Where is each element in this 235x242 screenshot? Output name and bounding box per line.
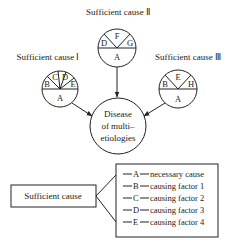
- cause-3-seg-2: E: [175, 72, 180, 82]
- svg-text:causing factor 2: causing factor 2: [150, 193, 204, 203]
- cause-2-title: Sufficient cause Ⅱ: [86, 7, 150, 17]
- cause-1-seg-4: E: [70, 79, 75, 89]
- svg-text:B: B: [133, 181, 139, 191]
- cause-2-seg-2: F: [115, 31, 120, 41]
- svg-text:causing factor 4: causing factor 4: [150, 217, 205, 227]
- arrow-cause-1: [72, 103, 92, 116]
- cause-3-seg-3: H: [188, 79, 194, 89]
- cause-2-seg-1: D: [101, 38, 107, 48]
- legend-item-b: B causing factor 1: [123, 181, 204, 191]
- disease-line-3: etiologies: [101, 133, 136, 143]
- cause-1-seg-3: D: [62, 72, 68, 82]
- disease-line-2: of multi–: [101, 121, 135, 131]
- svg-text:E: E: [133, 217, 138, 227]
- cause-2-seg-3: G: [127, 38, 133, 48]
- disease-line-1: Disease: [104, 109, 132, 119]
- svg-text:causing factor 1: causing factor 1: [150, 181, 204, 191]
- legend-box-label: Sufficient cause: [24, 191, 82, 201]
- svg-text:D: D: [133, 205, 139, 215]
- sufficient-cause-1: Sufficient cause Ⅰ B C D E A: [17, 52, 80, 107]
- arrow-cause-3: [144, 103, 165, 116]
- cause-1-seg-1: B: [44, 79, 50, 89]
- disease-node: Disease of multi– etiologies: [90, 98, 146, 154]
- legend-item-c: C causing factor 2: [123, 193, 204, 203]
- causal-pie-diagram: Sufficient cause Ⅱ D F G A Sufficient ca…: [0, 0, 235, 242]
- sufficient-cause-2: Sufficient cause Ⅱ D F G A: [86, 7, 150, 67]
- cause-3-title: Sufficient cause Ⅲ: [155, 52, 221, 62]
- legend-item-d: D causing factor 3: [123, 205, 204, 215]
- cause-1-title: Sufficient cause Ⅰ: [17, 52, 80, 62]
- sufficient-cause-3: Sufficient cause Ⅲ B E H A: [155, 52, 221, 108]
- cause-3-seg-1: B: [162, 79, 168, 89]
- legend: Sufficient cause A necessary cause B cau…: [11, 164, 218, 237]
- cause-2-base: A: [114, 52, 121, 62]
- legend-item-a: A necessary cause: [123, 169, 204, 179]
- svg-text:C: C: [133, 193, 139, 203]
- legend-item-e: E causing factor 4: [123, 217, 205, 227]
- svg-text:A: A: [133, 169, 140, 179]
- svg-text:causing factor 3: causing factor 3: [150, 205, 204, 215]
- cause-3-base: A: [175, 94, 182, 104]
- svg-text:necessary cause: necessary cause: [150, 169, 204, 179]
- cause-1-seg-2: C: [52, 72, 58, 82]
- cause-1-base: A: [57, 93, 64, 103]
